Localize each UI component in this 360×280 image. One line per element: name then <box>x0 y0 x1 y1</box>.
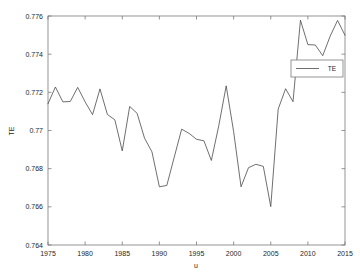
y-tick-label: 0.77 <box>29 127 43 134</box>
x-tick-label: 1995 <box>189 250 205 257</box>
figure-container: 197519801985199019952000200520102015 0.7… <box>0 0 360 280</box>
series-line-te <box>48 20 345 206</box>
y-tick-label: 0.774 <box>25 51 43 58</box>
x-axis-ticks <box>48 16 345 245</box>
legend-label-te: TE <box>328 65 337 72</box>
plot-frame <box>48 16 345 245</box>
line-chart: 197519801985199019952000200520102015 0.7… <box>0 0 360 280</box>
y-axis-title: TE <box>8 126 15 135</box>
y-axis-title-group: TE <box>8 126 15 135</box>
x-tick-label: 2010 <box>300 250 316 257</box>
y-axis-ticks <box>48 16 345 245</box>
x-tick-label: 2005 <box>263 250 279 257</box>
x-tick-label: 2015 <box>337 250 353 257</box>
x-tick-label: 1990 <box>152 250 168 257</box>
y-tick-label: 0.776 <box>25 13 43 20</box>
y-tick-label: 0.764 <box>25 242 43 249</box>
y-tick-label: 0.768 <box>25 165 43 172</box>
x-tick-label: 1980 <box>77 250 93 257</box>
x-axis-title: u <box>194 262 198 269</box>
y-axis-tick-labels: 0.7640.7660.7680.770.7720.7740.776 <box>25 13 43 249</box>
y-tick-label: 0.772 <box>25 89 43 96</box>
x-axis-title-group: u <box>194 262 198 269</box>
y-tick-label: 0.766 <box>25 203 43 210</box>
x-tick-label: 2000 <box>226 250 242 257</box>
x-tick-label: 1985 <box>114 250 130 257</box>
chart-legend[interactable]: TE <box>291 60 343 77</box>
x-axis-tick-labels: 197519801985199019952000200520102015 <box>40 250 353 257</box>
data-series-group <box>48 20 345 206</box>
x-tick-label: 1975 <box>40 250 56 257</box>
